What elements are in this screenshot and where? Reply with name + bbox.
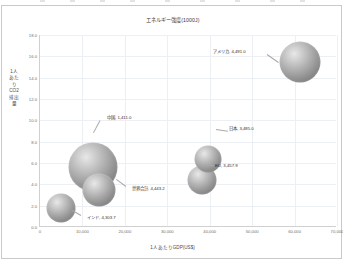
x-tick-label: 60,000 [288,229,301,234]
data-label-アメリカ: アメリカ, 4,491.0 [213,48,246,54]
y-tick-label: 2.0 [31,203,37,208]
data-label-世界合計: 世界合計, 4,443.2 [132,185,165,191]
x-tick-label: 0 [39,229,41,234]
y-tick-label: 8.0 [31,139,37,144]
toolbar-artifact [130,0,135,2]
bubble-日本[interactable] [194,145,221,172]
y-axis-title: 1人あたりCO2排出量 [9,69,19,107]
gridline-vertical [167,35,168,226]
toolbar-artifact [270,0,275,2]
data-label-EU: EU, 3,457.9 [215,163,238,168]
gridline-horizontal [40,99,336,100]
bubble-世界合計[interactable] [83,173,116,206]
y-tick-label: 16.0 [29,54,37,59]
toolbar-artifact [200,0,205,2]
data-label-中国: 中国, 1,411.0 [107,114,131,120]
gridline-horizontal [40,142,336,143]
y-tick-label: 18.0 [29,33,37,38]
chart-screenshot: エネルギー強度(1000J) 1人あたりCO2排出量 010,00020,000… [0,0,343,260]
y-tick-label: 14.0 [29,75,37,80]
data-label-インド: インド, 4,303.7 [87,214,116,220]
x-tick-label: 20,000 [118,229,131,234]
x-tick-label: 70,000 [331,229,343,234]
gridline-horizontal [40,206,336,207]
toolbar-artifact [100,0,105,2]
chart-frame: エネルギー強度(1000J) 1人あたりCO2排出量 010,00020,000… [1,5,342,259]
gridline-vertical [82,35,83,226]
y-tick-label: 12.0 [29,97,37,102]
x-axis-title: 1人あたりGDP(US$) [2,244,343,250]
gridline-horizontal [40,120,336,121]
toolbar-artifact [70,0,75,2]
x-tick-label: 50,000 [246,229,259,234]
bubble-アメリカ[interactable] [279,41,320,82]
gridline-vertical [210,35,211,226]
y-tick-label: 4.0 [31,182,37,187]
toolbar-artifact [235,0,240,2]
y-tick-label: 6.0 [31,161,37,166]
gridline-vertical [125,35,126,226]
x-tick-label: 30,000 [161,229,174,234]
bubble-インド[interactable] [47,193,76,222]
y-tick-label: 0.0 [31,225,37,230]
x-tick-label: 40,000 [203,229,216,234]
gridline-vertical [337,35,338,226]
gridline-horizontal [40,35,336,36]
toolbar-artifact [40,0,45,2]
chart-title: エネルギー強度(1000J) [2,16,343,23]
x-tick-label: 10,000 [76,229,89,234]
toolbar-artifact [165,0,170,2]
y-tick-label: 10.0 [29,118,37,123]
toolbar-artifact [300,0,305,2]
data-label-日本: 日本, 3,485.0 [229,125,254,131]
